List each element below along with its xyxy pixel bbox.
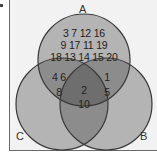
region-a-only: 3 7 12 16 9 17 11 19 18 13 14 15 20 bbox=[47, 27, 121, 63]
region-a-b-c: 2 10 bbox=[75, 84, 93, 110]
region-a-and-b: 1 5 bbox=[100, 71, 114, 98]
set-label-b: B bbox=[140, 131, 147, 142]
region-a-and-c: 4 6 8 bbox=[46, 71, 72, 98]
set-label-c: C bbox=[16, 131, 24, 142]
set-label-a: A bbox=[79, 4, 86, 15]
